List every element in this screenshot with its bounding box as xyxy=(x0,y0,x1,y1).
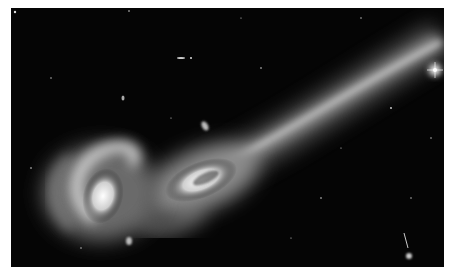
galaxy-scene xyxy=(11,8,444,267)
galaxy-photo xyxy=(11,8,444,267)
